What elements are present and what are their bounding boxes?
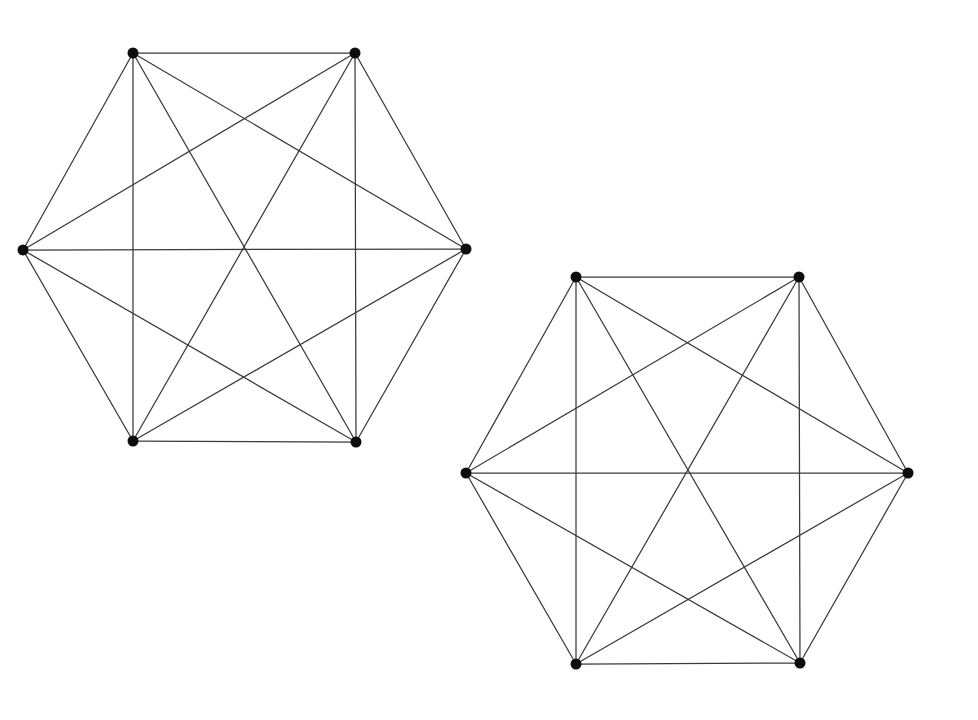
graph-edge <box>133 249 466 441</box>
graph-edge <box>466 473 576 664</box>
vertex-layer <box>18 48 914 670</box>
graph-edge <box>576 473 908 664</box>
graph-edge <box>355 53 466 249</box>
graph-edge <box>23 53 355 250</box>
graph-edge <box>466 277 576 473</box>
graph-vertex-top-left <box>128 48 139 59</box>
graph-vertex-bottom-right <box>795 658 806 669</box>
graph-vertex-left <box>461 468 472 479</box>
graph-edge <box>133 441 356 442</box>
graph-vertex-right <box>903 468 914 479</box>
graph-vertex-top-left <box>571 272 582 283</box>
graph-edge <box>23 53 133 250</box>
graph-edge <box>466 277 799 473</box>
graph-edge <box>800 473 908 663</box>
graph-vertex-top-right <box>350 48 361 59</box>
graph-2-edges <box>466 277 908 664</box>
graph-edge <box>23 249 466 250</box>
graph-edge <box>466 473 800 663</box>
graph-edge <box>355 53 356 442</box>
graph-vertex-bottom-left <box>571 659 582 670</box>
graph-edge <box>799 277 908 473</box>
graph-edge <box>799 277 800 663</box>
graph-vertex-bottom-right <box>351 437 362 448</box>
graph-vertex-right <box>461 244 472 255</box>
graph-vertex-bottom-left <box>128 436 139 447</box>
graph-edge <box>23 250 356 442</box>
figure-canvas <box>0 0 978 720</box>
graph-1-edges <box>23 53 466 442</box>
graph-edge <box>356 249 466 442</box>
graph-edge <box>23 250 133 441</box>
graph-vertex-left <box>18 245 29 256</box>
graph-edge <box>576 663 800 664</box>
edge-layer <box>23 53 908 664</box>
graph-drawing-surface <box>0 0 978 720</box>
graph-vertex-top-right <box>794 272 805 283</box>
